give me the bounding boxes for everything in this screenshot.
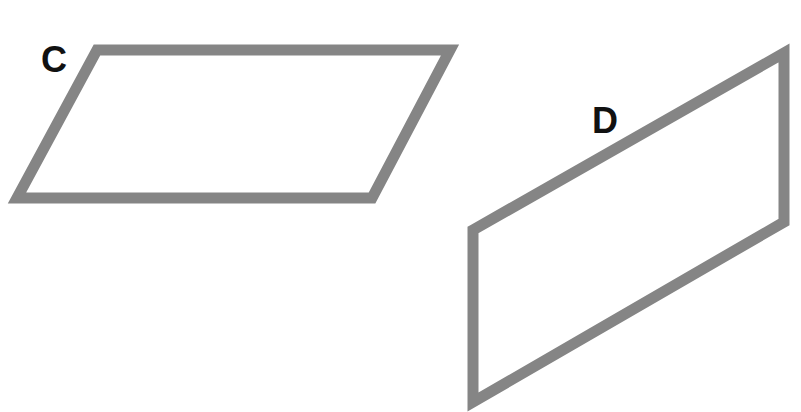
diagram-canvas: C D <box>0 0 801 412</box>
label-c: C <box>41 39 67 80</box>
label-d: D <box>592 100 618 141</box>
parallelogram-c-group: C <box>17 39 450 198</box>
parallelogram-d <box>473 53 784 402</box>
parallelogram-c <box>17 50 450 198</box>
parallelogram-d-group: D <box>473 53 784 402</box>
